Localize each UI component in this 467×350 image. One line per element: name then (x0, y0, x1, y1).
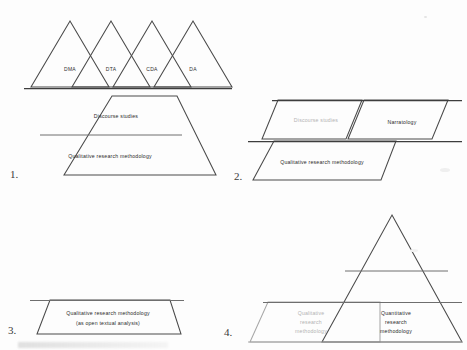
panel-four-label-quantitative-line2: research (385, 319, 407, 325)
panel-two-label-discourse-studies: Discourse studies (294, 117, 339, 123)
scan-speck-one (424, 16, 427, 18)
panel-two-label-qualitative: Qualitative research methodology (280, 159, 364, 165)
panel-two-label-narratology: Narratology (387, 119, 416, 125)
panel-one-triangle-cda (113, 21, 191, 87)
panel-four-label-quantitative-line3: methodology (380, 328, 412, 334)
panel-two: Discourse studies Narratology Qualitativ… (234, 100, 462, 182)
figure-page: DMA DTA CDA DA Discourse studies Qualita… (0, 0, 467, 350)
panel-one: DMA DTA CDA DA Discourse studies Qualita… (10, 21, 232, 180)
panel-one-label-cda: CDA (146, 66, 158, 72)
panel-three: Qualitative research methodology (as ope… (8, 300, 184, 336)
panel-one-triangle-dta (72, 21, 150, 87)
panel-one-number: 1. (10, 168, 19, 180)
panel-one-label-discourse-studies: Discourse studies (94, 113, 139, 119)
panel-three-number: 3. (8, 324, 17, 336)
panel-four-label-qualitative-line3: methodology (295, 328, 327, 334)
scan-speck-three (410, 249, 418, 252)
panel-four-number: 4. (224, 326, 233, 338)
panel-one-triangle-da (154, 21, 232, 87)
panel-one-triangle-dma (31, 21, 109, 87)
panel-four-label-quantitative-line1: Quantitative (381, 310, 411, 316)
panel-three-shape-qualitative (37, 300, 181, 334)
panel-four-label-qualitative-line2: research (300, 319, 322, 325)
scan-speck-two (440, 168, 450, 172)
panel-two-number: 2. (234, 170, 243, 182)
panel-one-label-dta: DTA (106, 66, 117, 72)
panel-four-label-qualitative-line1: Qualitative (298, 310, 325, 316)
panel-one-label-qualitative: Qualitative research methodology (68, 153, 152, 159)
panel-one-label-dma: DMA (64, 66, 76, 72)
scan-artifact-bottom (18, 342, 168, 348)
panel-three-label-line1: Qualitative research methodology (66, 310, 150, 316)
panel-four: Qualitative research methodology Quantit… (224, 215, 462, 342)
diagram-canvas: DMA DTA CDA DA Discourse studies Qualita… (0, 0, 467, 350)
panel-three-label-line2: (as open textual analysis) (76, 320, 140, 326)
panel-one-label-da: DA (189, 66, 197, 72)
